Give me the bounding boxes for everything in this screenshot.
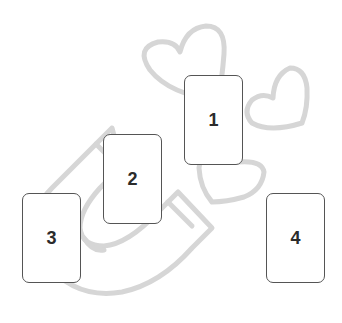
card-number-label: 3	[46, 229, 56, 247]
heart-icon	[247, 68, 307, 128]
card-spread-diagram: 1 2 3 4	[0, 0, 342, 323]
card-number-label: 2	[127, 170, 137, 188]
card-position-3: 3	[22, 193, 81, 283]
card-position-4: 4	[266, 193, 325, 283]
card-position-2: 2	[103, 134, 162, 224]
heart-icon	[199, 160, 264, 202]
card-position-1: 1	[184, 75, 243, 165]
card-number-label: 1	[208, 111, 218, 129]
card-number-label: 4	[290, 229, 300, 247]
